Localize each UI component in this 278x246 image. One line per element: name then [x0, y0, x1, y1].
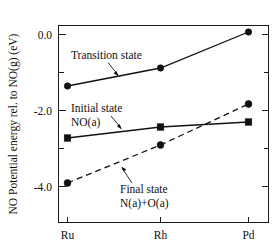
datapoint-initial-ru [64, 135, 70, 141]
annotation-final-state-arrowhead [121, 167, 126, 172]
datapoint-final-rh [157, 142, 164, 149]
annotation-transition-state-label: Transition state [71, 49, 142, 61]
annotation-transition-state-arrowhead [114, 71, 119, 76]
annotation-initial-state: Initial state NO(a) [71, 102, 122, 129]
y-tick-label-0: 0.0 [38, 29, 53, 41]
y-axis-ticks-right [262, 35, 269, 187]
y-tick-labels: 0.0 -2.0 -4.0 [34, 29, 52, 193]
x-axis-ticks [68, 217, 249, 223]
y-tick-label-2: -4.0 [34, 181, 52, 193]
x-tick-labels: Ru Rh Pd [61, 229, 255, 241]
datapoint-initial-rh [157, 124, 163, 130]
annotation-final-state-label-2: N(a)+O(a) [120, 197, 169, 210]
annotation-initial-state-label-2: NO(a) [71, 116, 101, 129]
datapoint-initial-pd [245, 119, 251, 125]
datapoint-final-pd [245, 101, 252, 108]
chart-canvas: 0.0 -2.0 -4.0 Ru Rh Pd NO Potential ener… [0, 0, 278, 246]
chart-figure: 0.0 -2.0 -4.0 Ru Rh Pd NO Potential ener… [0, 0, 278, 246]
x-tick-label-ru: Ru [61, 229, 75, 241]
annotation-initial-state-arrowhead [117, 124, 122, 129]
annotation-final-state-label-1: Final state [120, 183, 168, 195]
x-tick-label-pd: Pd [242, 229, 254, 241]
x-tick-label-rh: Rh [154, 229, 168, 241]
datapoint-transition-rh [157, 65, 163, 71]
datapoint-transition-ru [64, 83, 70, 89]
datapoint-final-ru [64, 180, 71, 187]
y-axis-title: NO Potential energy rel. to NO(g) (eV) [7, 33, 20, 214]
y-tick-label-1: -2.0 [34, 105, 52, 117]
annotation-transition-state: Transition state [71, 49, 142, 76]
datapoint-transition-pd [245, 29, 251, 35]
y-axis-ticks [59, 35, 66, 187]
annotation-final-state: Final state N(a)+O(a) [120, 167, 169, 210]
annotation-initial-state-label-1: Initial state [71, 102, 122, 114]
